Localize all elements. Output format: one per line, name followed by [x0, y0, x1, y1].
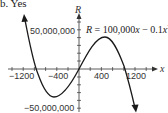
y-tick-label: −50,000,000	[24, 103, 74, 113]
curve-down-arrow-icon	[132, 105, 139, 113]
cubic-graph: x −1200 −400 400 1200 R 50,000,000 −50,0…	[0, 0, 168, 113]
equation-label: R = 100,000x − 0.1x3	[85, 23, 168, 35]
x-tick-label: −400	[48, 71, 68, 81]
y-axis-label: R	[74, 4, 81, 15]
x-tick-label: 1200	[126, 71, 146, 81]
y-tick-label: 50,000,000	[30, 26, 75, 36]
x-axis-arrow-icon	[152, 67, 158, 72]
x-axis-label: x	[159, 63, 165, 74]
x-tick-label: −1200	[9, 71, 34, 81]
x-axis: x −1200 −400 400 1200	[8, 63, 165, 81]
curve-up-arrow-icon	[22, 14, 29, 22]
x-tick-label: 400	[94, 71, 109, 81]
